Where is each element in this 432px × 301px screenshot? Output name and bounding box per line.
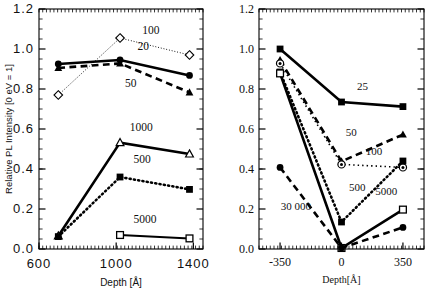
- data-point-filled-square: [400, 158, 407, 165]
- series-annotation-50: 50: [346, 126, 358, 138]
- series-annotation-25: 25: [357, 80, 369, 92]
- x-axis-label: Depth[Å]: [322, 274, 360, 285]
- y-tick-label: 0.0: [13, 241, 34, 256]
- series-line-100: [58, 38, 189, 95]
- data-point-circled-dot-core: [340, 163, 343, 166]
- y-tick-label: 1.0: [13, 41, 34, 56]
- x-tick-label: 0: [339, 255, 345, 269]
- series-annotation-100: 100: [142, 24, 160, 36]
- data-point-open-square: [400, 206, 407, 213]
- data-point-open-diamond: [185, 51, 194, 60]
- y-axis-label: Relative PL Intensity [0 eV = 1]: [3, 64, 14, 194]
- series-line-20: [58, 60, 189, 75]
- series-annotation-30000: 30 000: [281, 200, 312, 212]
- y-tick-label: 0.4: [13, 161, 34, 176]
- series-line-50: [280, 60, 403, 161]
- data-point-filled-triangle: [399, 131, 407, 138]
- y-tick-label: 0.8: [239, 82, 254, 96]
- x-axis-label: Depth [Å]: [100, 276, 142, 288]
- data-point-filled-square: [186, 186, 193, 193]
- x-tick-label: 1400: [177, 256, 210, 271]
- data-point-filled-circle: [400, 224, 407, 231]
- data-point-filled-circle: [277, 164, 284, 171]
- left-plot-panel: 600100014000.00.20.40.60.81.01.210020501…: [3, 1, 210, 288]
- series-annotation-500: 500: [134, 153, 152, 165]
- data-point-filled-square: [277, 46, 284, 53]
- data-point-open-square: [117, 232, 124, 239]
- y-tick-label: 0.4: [239, 162, 254, 176]
- series-line-25: [280, 49, 403, 107]
- series-line-5000: [120, 235, 189, 238]
- right-plot-panel: -35003500.00.20.40.60.81.01.225501005005…: [239, 2, 424, 285]
- y-tick-label: 0.2: [239, 202, 254, 216]
- series-line-1000: [58, 143, 189, 236]
- plot-frame: [39, 9, 203, 249]
- data-point-filled-circle: [338, 245, 345, 252]
- data-point-open-square: [277, 70, 284, 77]
- y-tick-label: 0.8: [13, 81, 34, 96]
- y-tick-label: 0.6: [13, 121, 34, 136]
- x-tick-label: 350: [394, 255, 412, 269]
- series-annotation-5000: 5000: [134, 213, 157, 225]
- y-tick-label: 1.2: [13, 1, 34, 16]
- data-point-open-diamond: [116, 34, 125, 43]
- data-point-open-diamond: [54, 91, 63, 100]
- y-tick-label: 1.2: [239, 2, 254, 16]
- data-point-filled-square: [338, 99, 345, 106]
- series-annotation-100: 100: [366, 145, 383, 157]
- x-tick-label: -350: [269, 255, 291, 269]
- series-annotation-20: 20: [137, 40, 149, 52]
- data-point-circled-dot-core: [401, 166, 404, 169]
- data-point-filled-square: [117, 174, 124, 181]
- y-tick-label: 1.0: [239, 42, 254, 56]
- data-point-filled-square: [55, 233, 62, 240]
- y-tick-label: 0.6: [239, 122, 254, 136]
- data-point-filled-square: [338, 219, 345, 226]
- x-tick-label: 1000: [100, 256, 133, 271]
- x-tick-label: 600: [27, 256, 52, 271]
- series-line-50: [58, 63, 189, 92]
- series-annotation-1000: 1000: [130, 121, 153, 133]
- data-point-circled-dot-core: [279, 62, 282, 65]
- y-tick-label: 0.2: [13, 201, 34, 216]
- series-annotation-500: 500: [349, 181, 366, 193]
- y-tick-label: 0.0: [239, 242, 254, 256]
- series-annotation-5000: 5000: [375, 185, 398, 197]
- series-annotation-50: 50: [125, 77, 137, 89]
- data-point-open-square: [186, 235, 193, 242]
- figure-container: 600100014000.00.20.40.60.81.01.210020501…: [0, 0, 432, 301]
- data-point-filled-square: [400, 103, 407, 110]
- data-point-filled-circle: [186, 72, 193, 79]
- figure-svg: 600100014000.00.20.40.60.81.01.210020501…: [0, 0, 432, 301]
